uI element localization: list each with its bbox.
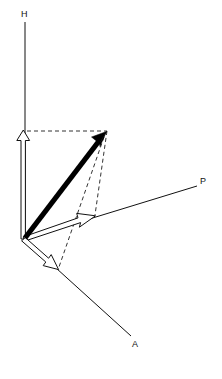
p-axis-label: P	[200, 176, 206, 186]
vector-diagram: H P A	[0, 0, 222, 379]
axes-group	[24, 22, 197, 336]
h-component-arrow	[17, 130, 30, 239]
vector-diagram-canvas: H P A	[0, 0, 222, 379]
a-axis-label: A	[132, 339, 138, 349]
axis-labels-group: H P A	[21, 9, 206, 349]
construction-lines-group	[27, 131, 107, 267]
a-component-arrow	[22, 238, 59, 270]
h-axis-label: H	[21, 9, 28, 19]
